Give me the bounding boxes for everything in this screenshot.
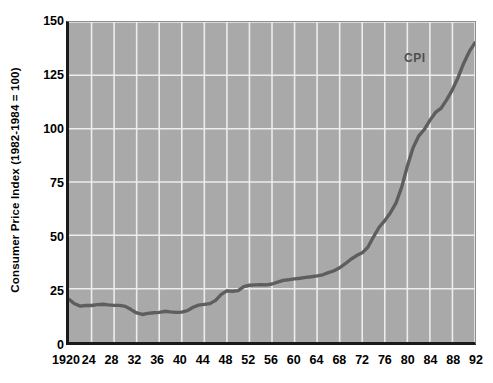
x-tick-label: 52 bbox=[241, 353, 255, 367]
x-tick-label: 56 bbox=[264, 353, 278, 367]
y-tick-label: 150 bbox=[26, 14, 64, 28]
x-tick-label: 32 bbox=[127, 353, 141, 367]
plot-canvas bbox=[69, 22, 475, 342]
x-tick-label: 44 bbox=[196, 353, 210, 367]
y-tick-label: 25 bbox=[26, 284, 64, 298]
x-tick-label: 88 bbox=[446, 353, 460, 367]
x-tick-label: 92 bbox=[469, 353, 483, 367]
y-tick-label: 50 bbox=[26, 230, 64, 244]
y-tick-label: 75 bbox=[26, 176, 64, 190]
plot-area: CPI bbox=[66, 21, 476, 345]
x-tick-label: 84 bbox=[423, 353, 437, 367]
series-label-cpi: CPI bbox=[404, 51, 426, 65]
x-tick-label: 28 bbox=[105, 353, 119, 367]
x-tick-label: 1920 bbox=[52, 353, 80, 367]
x-tick-label: 36 bbox=[150, 353, 164, 367]
x-tick-label: 76 bbox=[378, 353, 392, 367]
x-tick-label: 48 bbox=[218, 353, 232, 367]
y-axis-tick-labels: 0255075100125150 bbox=[26, 0, 64, 383]
x-tick-label: 60 bbox=[287, 353, 301, 367]
cpi-line-chart: Consumer Price Index (1982-1984 = 100) 0… bbox=[0, 0, 493, 383]
x-tick-label: 80 bbox=[401, 353, 415, 367]
x-tick-label: 24 bbox=[82, 353, 96, 367]
y-tick-label: 100 bbox=[26, 122, 64, 136]
y-tick-label: 125 bbox=[26, 68, 64, 82]
x-tick-label: 64 bbox=[310, 353, 324, 367]
x-tick-label: 72 bbox=[355, 353, 369, 367]
x-tick-label: 68 bbox=[332, 353, 346, 367]
x-tick-label: 40 bbox=[173, 353, 187, 367]
y-axis-title-text: Consumer Price Index (1982-1984 = 100) bbox=[9, 67, 21, 292]
x-axis-tick-labels: 1920242832364044485256606468727680848892 bbox=[0, 350, 493, 372]
